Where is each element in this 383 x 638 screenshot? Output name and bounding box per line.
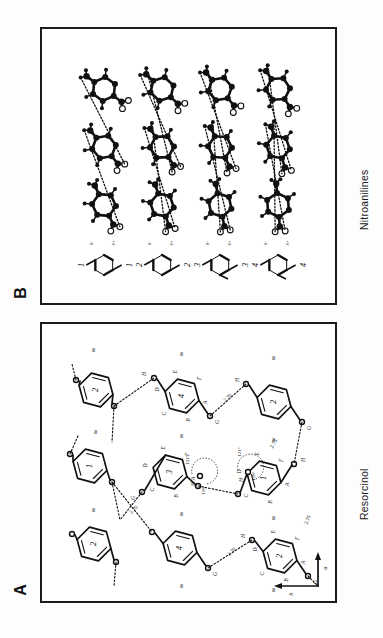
svg-text:4: 4	[175, 546, 184, 550]
svg-text:≈: ≈	[270, 588, 278, 592]
panel-b-drawing: 11δ-δ+22δ-δ+33δ-δ+44δ-δ+	[42, 29, 335, 303]
svg-text:B: B	[173, 494, 179, 498]
svg-text:1: 1	[259, 476, 268, 480]
figure-root: 11δ-δ+22δ-δ+33δ-δ+44δ-δ+ B Nitroanilines…	[0, 0, 383, 638]
svg-text:4: 4	[251, 263, 260, 267]
panel-a-resorcinol: 2124ABCDEFHG3ABCDEFG4G2HG1ABCDEFH2ABCDEF…	[40, 322, 337, 603]
svg-text:3: 3	[193, 263, 202, 268]
svg-text:δ+: δ+	[285, 240, 290, 245]
svg-text:A: A	[284, 482, 290, 487]
panel-a-drawing: 2124ABCDEFHG3ABCDEFG4G2HG1ABCDEFH2ABCDEF…	[42, 324, 335, 601]
svg-text:2.75: 2.75	[303, 514, 312, 525]
svg-text:H: H	[238, 477, 244, 483]
panel-a-letter: A	[12, 580, 32, 600]
svg-text:δ-: δ-	[89, 241, 94, 245]
svg-text:2: 2	[269, 400, 278, 404]
svg-text:E: E	[254, 452, 260, 457]
svg-text:2: 2	[275, 554, 284, 558]
svg-text:≈: ≈	[270, 516, 278, 520]
svg-text:D: D	[154, 388, 160, 393]
svg-text:121°: 121°	[237, 447, 242, 456]
svg-text:B: B	[185, 418, 191, 422]
svg-text:≈: ≈	[92, 430, 100, 434]
svg-text:3: 3	[241, 263, 250, 268]
svg-text:3: 3	[165, 470, 174, 475]
svg-text:E: E	[160, 446, 166, 451]
svg-text:≈: ≈	[178, 434, 186, 438]
svg-text:b: b	[287, 592, 294, 596]
svg-text:H: H	[141, 371, 147, 377]
svg-text:D: D	[252, 548, 258, 553]
svg-text:δ+: δ+	[111, 240, 116, 245]
svg-text:G: G	[214, 420, 220, 424]
svg-text:1: 1	[125, 263, 134, 267]
svg-text:118°: 118°	[201, 485, 206, 494]
svg-text:≈: ≈	[270, 438, 278, 442]
svg-text:A: A	[202, 400, 208, 405]
svg-text:1: 1	[77, 263, 86, 267]
svg-text:δ-: δ-	[205, 241, 210, 245]
svg-text:2.70: 2.70	[222, 392, 233, 403]
panel-b-nitroanilines: 11δ-δ+22δ-δ+33δ-δ+44δ-δ+	[40, 27, 337, 305]
svg-text:D: D	[236, 470, 242, 475]
svg-text:1: 1	[85, 464, 94, 468]
panel-b-letter: B	[12, 283, 32, 303]
svg-text:δ+: δ+	[227, 240, 232, 245]
svg-text:F: F	[278, 458, 284, 463]
svg-text:H: H	[240, 533, 246, 539]
svg-text:F: F	[196, 376, 202, 381]
svg-text:C: C	[149, 488, 155, 492]
svg-text:B: B	[267, 500, 273, 504]
svg-text:A: A	[300, 560, 306, 565]
svg-text:≈: ≈	[90, 348, 98, 352]
svg-text:a: a	[321, 566, 328, 569]
svg-text:4: 4	[299, 263, 308, 267]
svg-text:δ+: δ+	[169, 240, 174, 245]
svg-text:C: C	[161, 412, 167, 416]
svg-text:2: 2	[183, 263, 192, 267]
svg-text:C: C	[259, 572, 265, 576]
svg-text:2: 2	[91, 388, 100, 392]
svg-text:F: F	[294, 536, 300, 541]
svg-text:δ-: δ-	[263, 241, 268, 245]
svg-text:2: 2	[89, 542, 98, 546]
panel-b-caption: Nitroanilines	[358, 170, 370, 230]
panel-a-caption: Resorcinol	[358, 468, 370, 520]
svg-text:2: 2	[135, 263, 144, 267]
svg-text:G: G	[130, 496, 136, 500]
svg-text:2.70: 2.70	[226, 546, 237, 557]
svg-text:≈: ≈	[178, 584, 186, 588]
svg-text:121°: 121°	[185, 455, 190, 464]
svg-text:≈: ≈	[178, 352, 186, 356]
svg-text:118°: 118°	[251, 471, 256, 480]
svg-text:H: H	[300, 457, 306, 463]
svg-text:G: G	[306, 426, 312, 430]
svg-text:E: E	[270, 530, 276, 535]
svg-text:H: H	[234, 377, 240, 383]
svg-text:C: C	[243, 494, 249, 498]
svg-text:≈: ≈	[270, 356, 278, 360]
svg-text:≈: ≈	[178, 512, 186, 516]
svg-text:≈: ≈	[90, 508, 98, 512]
svg-text:G: G	[212, 572, 218, 576]
svg-text:D: D	[142, 464, 148, 469]
svg-text:δ-: δ-	[147, 241, 152, 245]
svg-text:E: E	[172, 370, 178, 375]
svg-text:4: 4	[177, 394, 186, 398]
svg-text:B: B	[283, 578, 289, 582]
